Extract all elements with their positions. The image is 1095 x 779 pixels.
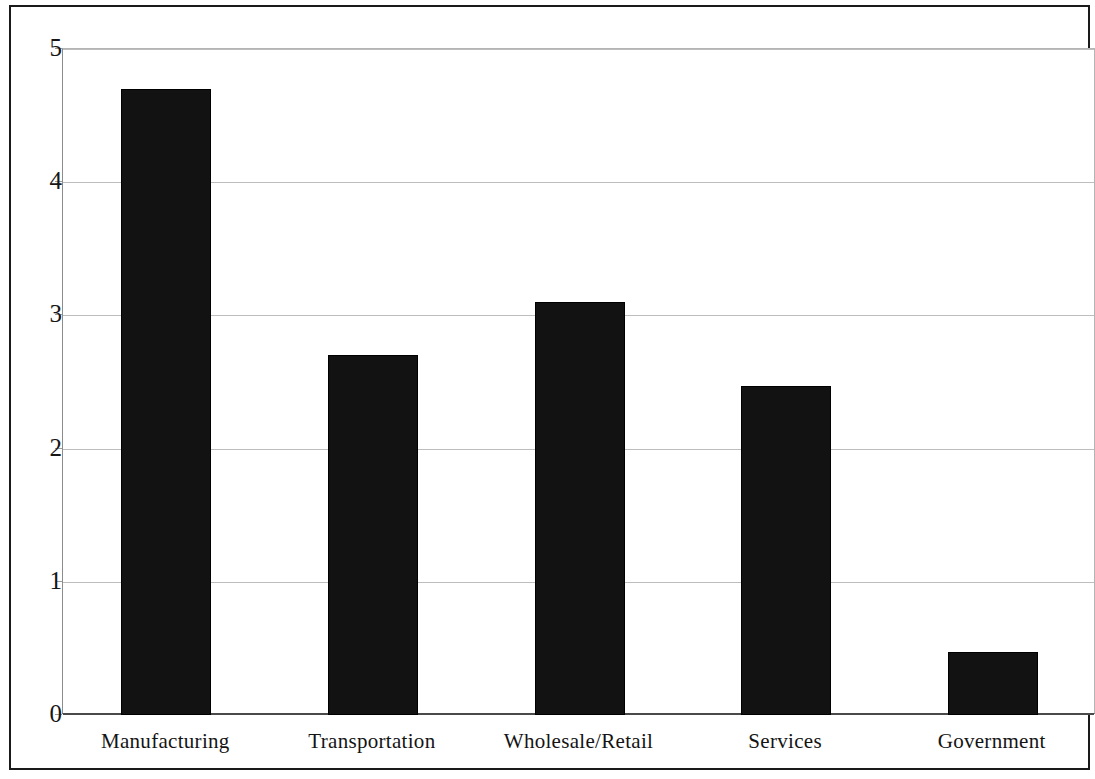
- figure-outer-border: 012345 ManufacturingTransportationWholes…: [9, 5, 1090, 770]
- x-axis-category-label: Services: [682, 729, 889, 753]
- x-axis-category-label: Government: [888, 729, 1095, 753]
- x-axis-category-label: Transportation: [269, 729, 476, 753]
- x-axis-category-label: Manufacturing: [62, 729, 269, 753]
- x-axis: ManufacturingTransportationWholesale/Ret…: [11, 7, 1092, 772]
- x-axis-category-label: Wholesale/Retail: [475, 729, 682, 753]
